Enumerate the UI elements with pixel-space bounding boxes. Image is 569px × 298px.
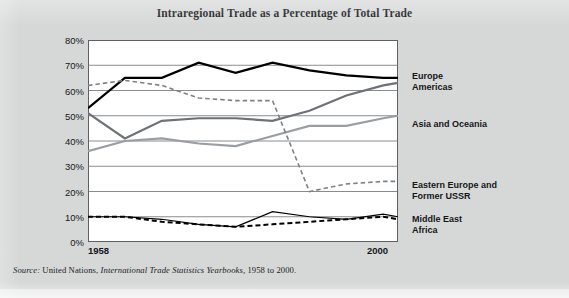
y-tick-40: 40% bbox=[42, 136, 84, 147]
source-years: 1958 to 2000. bbox=[247, 265, 296, 275]
x-axis-tick-start: 1958 bbox=[88, 245, 109, 256]
x-axis-tick-end: 2000 bbox=[367, 245, 388, 256]
y-tick-20: 20% bbox=[42, 186, 84, 197]
series-line-africa bbox=[88, 217, 398, 227]
legend-label-americas: Americas bbox=[412, 82, 453, 93]
y-tick-50: 50% bbox=[42, 110, 84, 121]
legend-label-eastern-europe-and-former-ussr: Eastern Europe and Former USSR bbox=[412, 180, 497, 201]
source-prefix: Source: bbox=[13, 265, 40, 275]
page-title: Intraregional Trade as a Percentage of T… bbox=[0, 7, 569, 19]
y-tick-80: 80% bbox=[42, 35, 84, 46]
y-tick-70: 70% bbox=[42, 60, 84, 71]
chart-figure: Intraregional Trade as a Percentage of T… bbox=[0, 0, 569, 298]
legend-label-africa: Africa bbox=[412, 225, 438, 236]
y-tick-0: 0% bbox=[42, 237, 84, 248]
series-line-eastern-europe-and-former-ussr bbox=[88, 80, 398, 191]
plot-region bbox=[88, 40, 398, 242]
page-bottom-edge bbox=[0, 289, 569, 298]
y-tick-30: 30% bbox=[42, 161, 84, 172]
y-axis: 80% 70% 60% 50% 40% 30% 20% 10% 0% bbox=[40, 40, 84, 242]
source-note: Source: United Nations, International Tr… bbox=[13, 265, 296, 275]
source-publisher: United Nations, bbox=[42, 265, 98, 275]
source-publication: International Trade Statistics Yearbooks… bbox=[101, 265, 246, 275]
chart-plot bbox=[88, 40, 398, 242]
series-line-americas bbox=[88, 83, 398, 139]
y-tick-10: 10% bbox=[42, 211, 84, 222]
y-tick-60: 60% bbox=[42, 85, 84, 96]
legend-label-middle-east: Middle East bbox=[412, 214, 462, 225]
data-series-layer bbox=[88, 63, 398, 227]
legend-label-asia-and-oceania: Asia and Oceania bbox=[412, 119, 487, 130]
legend-label-europe: Europe bbox=[412, 71, 443, 82]
